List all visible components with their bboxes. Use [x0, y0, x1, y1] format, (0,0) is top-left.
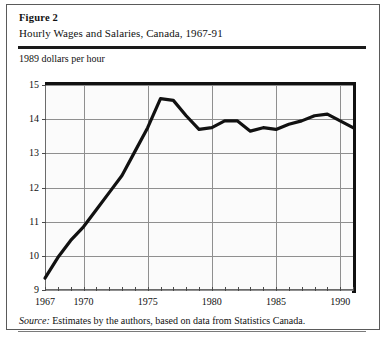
x-tick-mark [250, 287, 251, 291]
y-tick-mark [42, 85, 46, 86]
y-tick-mark [42, 188, 46, 189]
x-tick-mark [353, 287, 354, 291]
source-divider [18, 331, 366, 332]
x-tick-mark [238, 287, 239, 291]
x-tick-mark [71, 287, 72, 291]
x-tick-mark [199, 287, 200, 291]
figure-title: Hourly Wages and Salaries, Canada, 1967-… [19, 27, 223, 39]
x-tick-mark [148, 287, 149, 291]
y-tick-label: 10 [17, 251, 39, 261]
y-tick-label: 13 [17, 148, 39, 158]
x-tick-mark [212, 287, 213, 291]
x-tick-mark [109, 287, 110, 291]
x-tick-mark [225, 287, 226, 291]
x-tick-mark [315, 287, 316, 291]
y-tick-label: 11 [17, 217, 39, 227]
x-tick-label: 1990 [320, 297, 360, 307]
y-tick-mark [42, 153, 46, 154]
figure-number: Figure 2 [19, 12, 58, 23]
line-series [45, 85, 353, 290]
y-tick-mark [42, 222, 46, 223]
plot-area [45, 85, 353, 290]
source-text: Estimates by the authors, based on data … [52, 315, 305, 326]
x-tick-label: 1980 [192, 297, 232, 307]
x-tick-mark [161, 287, 162, 291]
x-tick-mark [263, 287, 264, 291]
figure-container: Figure 2 Hourly Wages and Salaries, Cana… [6, 4, 380, 330]
x-tick-mark [340, 287, 341, 291]
x-tick-label: 1975 [128, 297, 168, 307]
x-tick-mark [84, 287, 85, 291]
title-divider [18, 46, 366, 49]
x-tick-label: 1985 [256, 297, 296, 307]
x-tick-mark [173, 287, 174, 291]
y-tick-label: 12 [17, 183, 39, 193]
x-tick-mark [122, 287, 123, 291]
x-tick-mark [186, 287, 187, 291]
y-tick-label: 14 [17, 114, 39, 124]
y-tick-mark [42, 256, 46, 257]
x-tick-mark [58, 287, 59, 291]
x-tick-mark [327, 287, 328, 291]
x-tick-mark [96, 287, 97, 291]
y-tick-label: 9 [17, 285, 39, 295]
x-tick-mark [302, 287, 303, 291]
x-tick-mark [276, 287, 277, 291]
x-tick-mark [289, 287, 290, 291]
y-tick-mark [42, 119, 46, 120]
source-label: Source: [19, 315, 50, 326]
x-tick-label: 1967 [25, 297, 65, 307]
x-tick-label: 1970 [64, 297, 104, 307]
y-tick-label: 15 [17, 80, 39, 90]
y-axis-label: 1989 dollars per hour [19, 53, 105, 64]
x-tick-mark [135, 287, 136, 291]
source-note: Source: Estimates by the authors, based … [19, 315, 305, 326]
x-tick-mark [45, 287, 46, 291]
